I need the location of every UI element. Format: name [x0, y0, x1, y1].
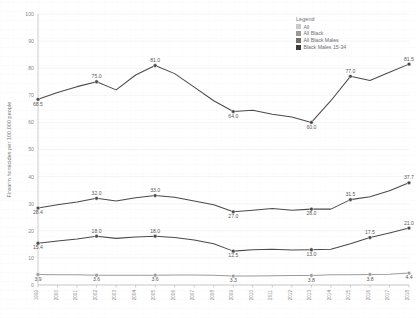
data-point-label: 31.5 — [345, 191, 355, 197]
legend-entries: AllAll BlackAll Black MalesBlack Males 1… — [296, 24, 346, 51]
x-tick-label: 1999 — [34, 290, 39, 301]
y-tick-label: 60 — [28, 119, 34, 125]
x-tick-label: 2008 — [210, 290, 215, 301]
x-tick-label: 2002 — [93, 290, 98, 301]
data-point-label: 12.5 — [228, 252, 238, 258]
x-tick-label: 2001 — [73, 290, 78, 301]
data-point-marker[interactable] — [153, 64, 157, 68]
legend-swatch-icon — [296, 38, 301, 43]
y-tick-label: 70 — [28, 92, 34, 98]
x-tick-label: 2015 — [346, 290, 351, 301]
legend-item-label: All Black — [304, 30, 324, 36]
data-point-label: 77.0 — [345, 68, 355, 74]
y-tick-label: 20 — [28, 228, 34, 234]
data-point-label: 32.0 — [92, 190, 102, 196]
x-tick-label: 2004 — [132, 290, 137, 301]
x-tick-label: 2000 — [54, 290, 59, 301]
x-tick-label: 2018 — [405, 290, 410, 301]
data-point-label: 27.0 — [228, 213, 238, 219]
data-point-marker[interactable] — [368, 236, 372, 240]
series-line-all-black-males — [38, 183, 409, 212]
data-point-label: 37.7 — [404, 174, 414, 180]
chart-root: 0102030405060708090100Firearm homicides … — [0, 0, 416, 318]
x-tick-label: 2007 — [190, 290, 195, 301]
y-tick-label: 80 — [28, 65, 34, 71]
data-point-label: 3.6 — [93, 276, 100, 282]
data-point-label: 3.3 — [230, 277, 237, 283]
data-point-marker[interactable] — [95, 196, 99, 200]
y-tick-label: 10 — [28, 255, 34, 261]
data-point-label: 33.0 — [150, 187, 160, 193]
x-tick-label: 2017 — [385, 290, 390, 301]
data-point-marker[interactable] — [153, 194, 157, 198]
legend-item-all-black[interactable]: All Black — [296, 30, 346, 36]
legend: Legend AllAll BlackAll Black MalesBlack … — [296, 16, 346, 51]
data-point-label: 3.8 — [366, 276, 373, 282]
legend-item-label: All Black Males — [304, 37, 339, 43]
data-point-label: 3.9 — [34, 276, 41, 282]
data-point-label: 13.0 — [306, 251, 316, 257]
data-point-label: 68.5 — [33, 101, 43, 107]
data-point-label: 3.8 — [308, 277, 315, 283]
data-point-label: 4.4 — [405, 274, 412, 280]
data-point-label: 28.4 — [33, 209, 43, 215]
legend-item-all[interactable]: All — [296, 24, 346, 30]
data-point-marker[interactable] — [95, 80, 99, 84]
x-tick-label: 2005 — [151, 290, 156, 301]
data-point-label: 81.0 — [150, 57, 160, 63]
line-chart-plot: 0102030405060708090100Firearm homicides … — [0, 0, 416, 318]
data-point-marker[interactable] — [349, 198, 353, 202]
data-point-marker[interactable] — [407, 181, 411, 185]
legend-item-black-males-15-34[interactable]: Black Males 15-34 — [296, 44, 346, 50]
y-tick-label: 90 — [28, 38, 34, 44]
x-tick-label: 2014 — [327, 290, 332, 301]
y-tick-label: 50 — [28, 146, 34, 152]
y-axis-title: Firearm homicides per 100,000 people — [6, 102, 12, 198]
legend-item-label: Black Males 15-34 — [304, 44, 347, 50]
x-tick-label: 2010 — [249, 290, 254, 301]
x-tick-label: 2009 — [229, 290, 234, 301]
y-tick-label: 0 — [31, 282, 34, 288]
x-tick-label: 2012 — [288, 290, 293, 301]
data-point-marker[interactable] — [349, 74, 353, 78]
data-point-marker[interactable] — [95, 234, 99, 238]
data-point-label: 60.0 — [306, 124, 316, 130]
data-point-marker[interactable] — [153, 234, 157, 238]
x-tick-label: 2003 — [112, 290, 117, 301]
x-tick-label: 2006 — [171, 290, 176, 301]
data-point-label: 21.0 — [404, 220, 414, 226]
data-point-label: 17.5 — [365, 229, 375, 235]
legend-swatch-icon — [296, 45, 301, 50]
x-tick-label: 2016 — [366, 290, 371, 301]
data-point-label: 3.6 — [152, 276, 159, 282]
legend-title: Legend — [296, 16, 346, 22]
data-point-label: 64.0 — [228, 113, 238, 119]
legend-item-label: All — [304, 24, 310, 30]
data-point-marker[interactable] — [407, 62, 411, 66]
y-tick-label: 100 — [25, 11, 34, 17]
data-point-marker[interactable] — [407, 226, 411, 230]
x-tick-label: 2011 — [268, 290, 273, 300]
data-point-label: 18.0 — [92, 228, 102, 234]
data-point-label: 15.4 — [33, 244, 43, 250]
data-point-label: 75.0 — [92, 73, 102, 79]
legend-item-all-black-males[interactable]: All Black Males — [296, 37, 346, 43]
y-tick-label: 30 — [28, 201, 34, 207]
data-point-label: 81.5 — [404, 56, 414, 62]
legend-swatch-icon — [296, 31, 301, 36]
y-tick-label: 40 — [28, 174, 34, 180]
x-tick-label: 2013 — [307, 290, 312, 301]
legend-swatch-icon — [296, 24, 301, 29]
data-point-label: 28.0 — [306, 210, 316, 216]
data-point-label: 18.0 — [150, 228, 160, 234]
